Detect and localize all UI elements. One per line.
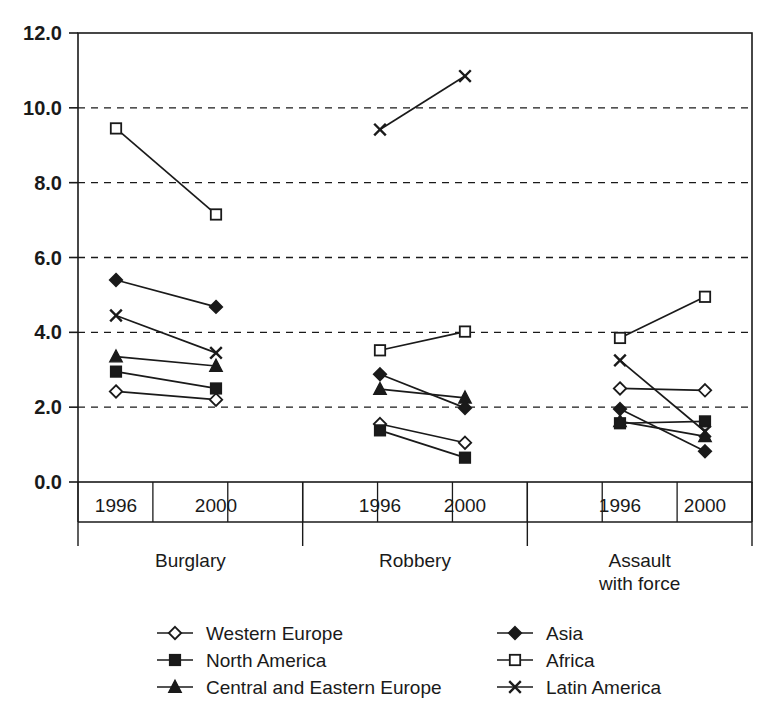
legend-marker-open-diamond [169, 627, 181, 639]
data-point [210, 393, 222, 405]
x-tick-label: 1996 [359, 495, 401, 516]
data-point [110, 385, 122, 397]
series-segment [116, 357, 216, 366]
data-point [211, 209, 221, 219]
data-point [110, 350, 122, 362]
group-label: Robbery [379, 550, 451, 571]
y-tick-label: 2.0 [34, 396, 62, 418]
data-point [111, 123, 121, 133]
legend-marker-filled-square [170, 655, 180, 665]
legend-marker-open-square [510, 655, 520, 665]
x-tick-label: 2000 [444, 495, 486, 516]
series-segment [116, 128, 216, 214]
data-point [460, 452, 470, 462]
series-segment [116, 372, 216, 389]
axis-labels: 0.02.04.06.08.010.012.019962000199620001… [23, 22, 726, 594]
group-label: Burglary [155, 550, 226, 571]
data-point [375, 345, 385, 355]
figure-root: 0.02.04.06.08.010.012.019962000199620001… [0, 0, 776, 723]
y-tick-label: 4.0 [34, 321, 62, 343]
legend-label: Western Europe [206, 623, 343, 644]
legend-item[interactable]: Latin America [497, 677, 662, 698]
y-tick-label: 0.0 [34, 471, 62, 493]
legend-label: Latin America [546, 677, 662, 698]
y-tick-label: 10.0 [23, 97, 62, 119]
legend-label: Asia [546, 623, 583, 644]
series-segment [116, 315, 216, 352]
data-point [615, 333, 625, 343]
legend-item[interactable]: Africa [497, 650, 595, 671]
legend-item[interactable]: Central and Eastern Europe [157, 677, 442, 698]
data-layer [110, 70, 711, 463]
y-tick-label: 12.0 [23, 22, 62, 44]
data-point [700, 292, 710, 302]
y-tick-label: 8.0 [34, 172, 62, 194]
data-point [460, 326, 470, 336]
data-point [374, 383, 386, 395]
series-segment [380, 424, 465, 443]
x-tick-label: 2000 [195, 495, 237, 516]
series-segment [380, 76, 465, 130]
legend: Western EuropeNorth AmericaCentral and E… [157, 623, 662, 698]
series-segment [380, 430, 465, 457]
data-point [699, 445, 711, 457]
data-point [375, 425, 385, 435]
series-segment [620, 388, 705, 390]
series-africa [111, 123, 710, 355]
group-label: with force [598, 573, 680, 594]
legend-label: Central and Eastern Europe [206, 677, 442, 698]
legend-item[interactable]: Asia [497, 623, 583, 644]
group-label: Assault [609, 550, 672, 571]
series-segment [380, 332, 465, 351]
series-segment [620, 421, 705, 436]
series-segment [620, 409, 705, 451]
data-point [614, 382, 626, 394]
data-point [614, 403, 626, 415]
legend-label: North America [206, 650, 327, 671]
data-point [210, 301, 222, 313]
legend-marker-filled-diamond [509, 627, 521, 639]
y-tick-label: 6.0 [34, 247, 62, 269]
series-segment [620, 360, 705, 431]
data-point [459, 437, 471, 449]
line-chart: 0.02.04.06.08.010.012.019962000199620001… [0, 0, 776, 706]
legend-item[interactable]: Western Europe [157, 623, 343, 644]
series-segment [116, 280, 216, 307]
data-point [374, 368, 386, 380]
data-point [111, 366, 121, 376]
caption-clipped [0, 709, 776, 723]
legend-item[interactable]: North America [157, 650, 327, 671]
data-point [700, 416, 710, 426]
x-tick-label: 1996 [95, 495, 137, 516]
series-segment [116, 391, 216, 399]
legend-label: Africa [546, 650, 595, 671]
x-tick-label: 1996 [599, 495, 641, 516]
data-point [110, 274, 122, 286]
data-point [699, 384, 711, 396]
data-point [211, 383, 221, 393]
x-tick-label: 2000 [684, 495, 726, 516]
